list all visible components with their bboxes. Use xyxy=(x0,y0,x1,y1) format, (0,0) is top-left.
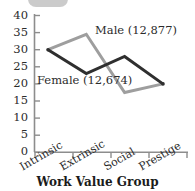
line-chart: 40 35 30 25 20 15 10 5 0 Male ( xyxy=(0,0,195,191)
data-point-marker xyxy=(161,82,165,86)
series-label-female: Female (12,674) xyxy=(37,74,132,86)
x-axis-title: Work Value Group xyxy=(0,175,195,189)
series-label-male: Male (12,877) xyxy=(95,24,177,36)
data-point-marker xyxy=(46,48,50,52)
